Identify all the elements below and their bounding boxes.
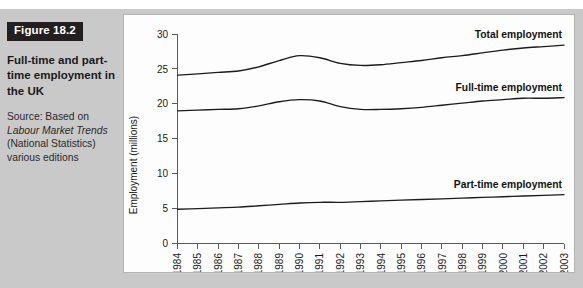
- x-tick-label: 1995: [396, 253, 407, 272]
- y-tick-label: 0: [162, 238, 168, 249]
- figure-container: Figure 18.2 Full-time and part-time empl…: [0, 0, 583, 288]
- x-tick-label: 1998: [457, 253, 468, 272]
- figure-source: Source: Based on Labour Market Trends (N…: [7, 110, 115, 164]
- y-tick-label: 15: [157, 133, 169, 144]
- source-publication: Labour Market Trends: [7, 125, 108, 136]
- series-label: Part-time employment: [454, 179, 563, 190]
- line-chart: Employment (millions) 051015202530 19841…: [124, 15, 574, 272]
- x-tick-label: 2001: [518, 253, 529, 272]
- x-tick-label: 1986: [213, 253, 224, 272]
- x-tick-label: 1989: [274, 253, 285, 272]
- source-org: (National Statistics): [7, 138, 96, 149]
- y-axis-ticks: 051015202530: [157, 29, 178, 250]
- source-prefix: Source: Based on: [7, 111, 89, 122]
- chart-panel: Employment (millions) 051015202530 19841…: [123, 14, 575, 273]
- top-white-strip: [0, 0, 583, 9]
- y-axis-title: Employment (millions): [128, 116, 139, 214]
- x-tick-label: 2000: [498, 253, 509, 272]
- series-line: [178, 98, 565, 111]
- series-line: [178, 195, 565, 210]
- x-tick-label: 1984: [172, 253, 183, 272]
- x-tick-label: 2002: [538, 253, 549, 272]
- y-tick-label: 5: [162, 203, 168, 214]
- x-tick-label: 1999: [477, 253, 488, 272]
- source-editions: various editions: [7, 152, 79, 163]
- x-tick-label: 1993: [355, 253, 366, 272]
- x-tick-label: 1988: [253, 253, 264, 272]
- y-tick-label: 10: [157, 168, 169, 179]
- series-label: Total employment: [475, 29, 563, 40]
- figure-number-badge: Figure 18.2: [7, 22, 83, 41]
- x-tick-label: 1997: [437, 253, 448, 272]
- x-axis-ticks: 1984198519861987198819891990199119921993…: [172, 244, 569, 273]
- x-tick-label: 1992: [335, 253, 346, 272]
- x-tick-label: 1990: [294, 253, 305, 272]
- y-tick-label: 25: [157, 64, 169, 75]
- y-tick-label: 20: [157, 98, 169, 109]
- series-line: [178, 45, 565, 75]
- x-tick-label: 1996: [416, 253, 427, 272]
- x-tick-label: 2003: [559, 253, 570, 272]
- series-label-group: Total employmentFull-time employmentPart…: [454, 29, 563, 189]
- figure-title: Full-time and part-time employment in th…: [7, 53, 115, 100]
- series-label: Full-time employment: [456, 82, 563, 93]
- x-tick-label: 1987: [233, 253, 244, 272]
- y-tick-label: 30: [157, 29, 169, 40]
- x-tick-label: 1985: [192, 253, 203, 272]
- x-tick-label: 1994: [376, 253, 387, 272]
- figure-caption-column: Figure 18.2 Full-time and part-time empl…: [7, 20, 115, 164]
- x-tick-label: 1991: [314, 253, 325, 272]
